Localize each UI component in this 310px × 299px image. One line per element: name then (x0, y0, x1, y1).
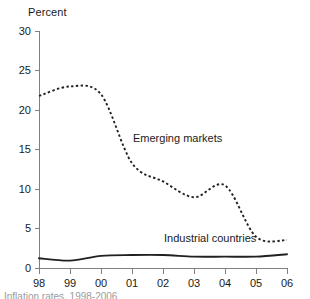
x-tick-label: 05 (250, 277, 262, 289)
series-line-emerging-markets (39, 86, 287, 242)
y-axis-ticks (35, 32, 40, 269)
x-tick-label: 06 (281, 277, 293, 289)
x-axis-ticks (40, 269, 288, 274)
y-tick-label: 5 (25, 222, 31, 234)
y-tick-label: 30 (19, 25, 31, 37)
y-tick-label: 25 (19, 64, 31, 76)
series-label-industrial-countries: Industrial countries (164, 232, 257, 244)
clipped-caption: Inflation rates, 1998-2006 (4, 291, 306, 299)
x-tick-label: 03 (188, 277, 200, 289)
x-axis-tick-labels: 98 99 00 01 02 03 04 05 06 (33, 277, 293, 289)
x-tick-label: 02 (157, 277, 169, 289)
series-line-industrial-countries (39, 254, 287, 260)
y-tick-label: 10 (19, 183, 31, 195)
series-label-emerging-markets: Emerging markets (133, 132, 223, 144)
chart-plot-area: 30 25 20 15 10 5 0 98 99 00 01 02 (0, 0, 310, 299)
y-tick-label: 20 (19, 104, 31, 116)
chart-figure: Percent 30 25 20 15 10 5 0 (0, 0, 310, 299)
x-tick-label: 01 (126, 277, 138, 289)
x-tick-label: 98 (33, 277, 45, 289)
x-tick-label: 04 (219, 277, 231, 289)
y-tick-label: 0 (25, 262, 31, 274)
y-tick-label: 15 (19, 143, 31, 155)
y-axis-tick-labels: 30 25 20 15 10 5 0 (19, 25, 31, 274)
x-tick-label: 00 (95, 277, 107, 289)
x-tick-label: 99 (64, 277, 76, 289)
